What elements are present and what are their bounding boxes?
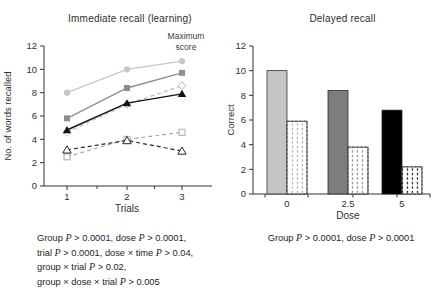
y-tick-label: 2 — [32, 157, 37, 168]
x-tick-label: 5 — [399, 198, 404, 209]
y-tick-label: 6 — [32, 110, 37, 121]
y-axis-label: No. of words recalled — [2, 71, 13, 160]
immediate-recall-line-chart: 024681012123TrialsNo. of words recalled — [0, 28, 225, 225]
y-tick-label: 8 — [32, 87, 37, 98]
right-chart-stats-text: Group P > 0.0001, dose P > 0.0001 — [243, 231, 439, 246]
y-tick-label: 4 — [241, 139, 246, 150]
y-tick-label: 12 — [26, 40, 37, 51]
x-tick-label: 3 — [179, 191, 184, 202]
dotted-bar-pattern-dose-2.5 — [348, 147, 368, 194]
x-tick-label: 1 — [64, 191, 69, 202]
stats-line: Group P > 0.0001, dose P > 0.0001, — [37, 231, 252, 246]
left-chart-stats-text: Group P > 0.0001, dose P > 0.0001,trial … — [37, 231, 252, 289]
x-axis-label: Dose — [336, 210, 360, 221]
left-chart-title: Immediate recall (learning) — [30, 13, 230, 24]
y-axis-label: Correct — [225, 104, 236, 136]
y-tick-label: 0 — [241, 188, 246, 199]
y-tick-label: 12 — [235, 40, 246, 51]
y-tick-label: 10 — [26, 64, 37, 75]
right-chart-title: Delayed recall — [255, 13, 430, 24]
x-tick-label: 2.5 — [341, 198, 354, 209]
y-tick-label: 10 — [235, 65, 246, 76]
line-series-gray-solid-filled-square — [67, 73, 182, 119]
y-tick-label: 4 — [32, 134, 37, 145]
stats-line: group × trial P > 0.02, — [37, 260, 252, 275]
dotted-bar-pattern-dose-5 — [402, 167, 422, 194]
maximum-score-annotation: Maximum score — [160, 31, 212, 52]
x-tick-label: 0 — [284, 198, 289, 209]
stats-line: group × dose × trial P > 0.005 — [37, 275, 252, 290]
figure-canvas: Immediate recall (learning) Delayed reca… — [0, 0, 439, 299]
dotted-bar-pattern-dose-0 — [287, 121, 307, 194]
solid-bar-dose-5 — [382, 110, 402, 194]
delayed-recall-bar-chart: 02468101202.55DoseCorrect — [225, 28, 439, 225]
y-tick-label: 0 — [32, 180, 37, 191]
x-axis-label: Trials — [115, 203, 139, 214]
y-tick-label: 6 — [241, 114, 246, 125]
x-tick-label: 2 — [124, 191, 129, 202]
solid-bar-dose-0 — [267, 71, 287, 194]
solid-bar-dose-2.5 — [328, 90, 348, 194]
y-tick-label: 8 — [241, 90, 246, 101]
stats-line: Group P > 0.0001, dose P > 0.0001 — [243, 231, 439, 246]
stats-line: trial P > 0.0001, dose × time P > 0.04, — [37, 246, 252, 261]
y-tick-label: 2 — [241, 164, 246, 175]
line-series-black-solid-filled-triangle — [67, 94, 182, 130]
